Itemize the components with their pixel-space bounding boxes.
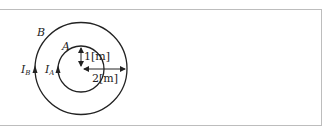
inner-current-arrow-icon	[56, 65, 61, 73]
concentric-loops-diagram: B A IB IA 1[m] 2[m]	[0, 0, 332, 137]
outer-current-label: IB	[20, 63, 31, 77]
inner-loop-label: A	[61, 40, 70, 53]
outer-loop-label: B	[36, 26, 45, 39]
radius-a-label: 1[m]	[84, 50, 110, 63]
radius-b-label: 2[m]	[92, 72, 118, 85]
outer-current-arrow-icon	[33, 65, 38, 73]
inner-current-label: IA	[44, 63, 54, 77]
